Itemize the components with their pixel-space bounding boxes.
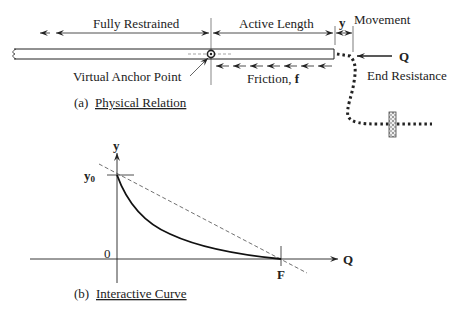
origin-label: 0 — [104, 246, 111, 261]
soil-resistance-block — [389, 112, 396, 137]
linear-reference-dashed — [99, 164, 307, 273]
caption-a-title: Physical Relation — [95, 95, 187, 110]
panel-interactive-curve: y Q y0 0 F (b) Interactive Curve — [30, 138, 353, 301]
f-label: F — [277, 267, 285, 282]
active-length-label: Active Length — [239, 16, 314, 31]
connecting-pipe-dotted — [337, 54, 432, 124]
fully-restrained-label: Fully Restrained — [93, 16, 180, 31]
virtual-anchor-label: Virtual Anchor Point — [73, 69, 182, 84]
panel-physical-relation: Fully Restrained Active Length y Movemen… — [13, 12, 447, 137]
pipe-break-icon — [13, 49, 16, 59]
pipe — [13, 49, 334, 59]
y-axis-label: y — [113, 138, 120, 153]
movement-symbol: y — [339, 15, 346, 30]
anchor-pointer-arrow — [190, 58, 208, 76]
caption-b-prefix: (b) — [74, 286, 89, 301]
friction-label: Friction, f — [247, 71, 300, 86]
x-axis-label: Q — [343, 252, 353, 267]
caption-a-prefix: (a) — [74, 95, 88, 110]
y0-label: y0 — [84, 168, 96, 184]
end-force-label: Q — [399, 49, 409, 64]
movement-label: Movement — [354, 12, 411, 27]
pipe-anchor-diagram: Fully Restrained Active Length y Movemen… — [0, 0, 459, 317]
caption-b-title: Interactive Curve — [96, 286, 187, 301]
end-resistance-label: End Resistance — [367, 68, 447, 83]
